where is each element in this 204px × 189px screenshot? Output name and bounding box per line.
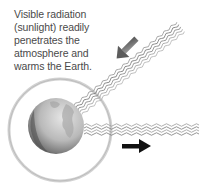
caption-line: (sunlight) readily <box>14 21 104 34</box>
caption-text: Visible radiation (sunlight) readily pen… <box>14 8 104 73</box>
earth-globe <box>28 98 84 154</box>
caption-line: Visible radiation <box>14 8 104 21</box>
caption-line: atmosphere and <box>14 47 104 60</box>
arrow-right-icon <box>122 139 151 153</box>
outgoing-radiation-lines <box>84 124 199 136</box>
caption-line: penetrates the <box>14 34 104 47</box>
caption-line: warms the Earth. <box>14 60 104 73</box>
greenhouse-diagram: Visible radiation (sunlight) readily pen… <box>0 0 204 189</box>
